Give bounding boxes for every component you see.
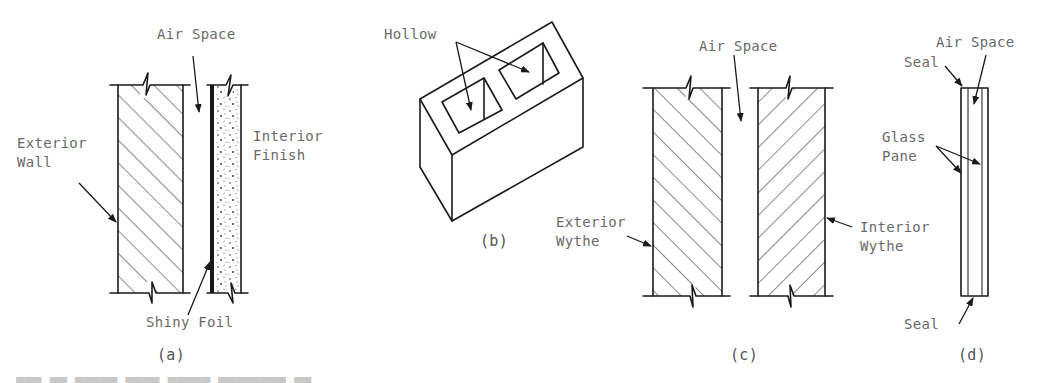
interior-finish-block [215, 85, 240, 293]
glass-unit [961, 88, 988, 296]
block-top-face [420, 22, 583, 155]
hollow-2 [499, 43, 559, 99]
label-hollow: Hollow [384, 25, 436, 44]
interior-wythe-arrow [827, 218, 852, 227]
caption-d: (d) [958, 346, 986, 365]
label-seal-bottom: Seal [904, 315, 939, 334]
hollow-1 [442, 78, 502, 133]
exterior-wall-block [118, 85, 183, 293]
exterior-wythe-arrow [627, 236, 651, 246]
air-space-arrow [193, 56, 199, 112]
hollow-arrow-2 [456, 42, 529, 72]
label-glass-pane: Glass Pane [882, 128, 926, 166]
panel-a-drawing [79, 56, 248, 315]
caption-a: (a) [157, 346, 185, 365]
shiny-foil-arrow [188, 262, 210, 315]
exterior-wall-arrow [79, 183, 116, 222]
interior-wythe-block [758, 88, 825, 296]
shiny-foil [210, 85, 214, 293]
glass-pane-arrow-2 [936, 146, 980, 164]
air-space-arrow-d [974, 55, 986, 104]
panel-c-drawing [627, 55, 852, 307]
label-air-space-c: Air Space [699, 37, 778, 56]
label-interior-wythe: Interior Wythe [860, 218, 930, 256]
panel-d-drawing [936, 55, 988, 324]
label-air-space-d: Air Space [936, 33, 1015, 52]
seal-bottom-arrow [959, 298, 973, 324]
glass-pane-arrow-1 [936, 146, 961, 173]
air-space-arrow-c [734, 55, 741, 121]
caption-c: (c) [730, 346, 758, 365]
label-interior-finish: Interior Finish [253, 127, 323, 165]
seal-top-arrow [945, 66, 962, 86]
label-seal-top: Seal [904, 53, 939, 72]
label-air-space-a: Air Space [157, 25, 236, 44]
label-exterior-wythe: Exterior Wythe [556, 213, 626, 251]
label-exterior-wall: Exterior Wall [17, 134, 87, 172]
label-shiny-foil: Shiny Foil [146, 313, 233, 332]
exterior-wythe-block [653, 88, 722, 296]
panel-b-drawing [420, 22, 583, 221]
figure-caption-truncated: ▀▀▀ ▀▀ ▀▀▀▀▀ ▀▀▀▀ ▀▀▀▀▀ ▀▀▀▀▀▀▀▀ ▀▀ [16, 377, 346, 383]
caption-b: (b) [480, 232, 508, 251]
